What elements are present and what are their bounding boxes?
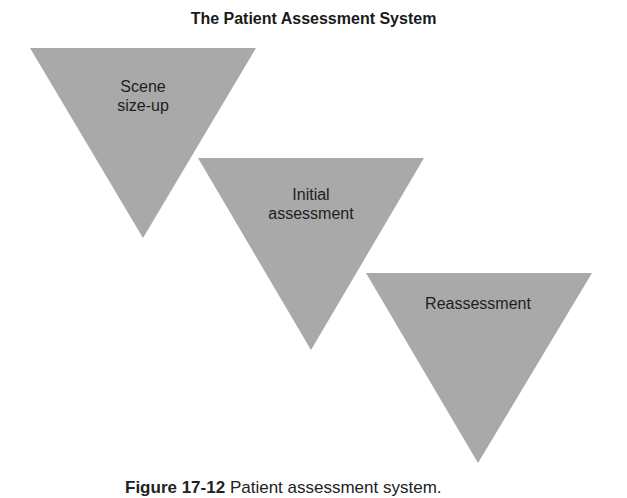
figure-caption: Figure 17-12 Patient assessment system. — [125, 478, 442, 498]
step-initial-assessment: Initial assessment — [251, 185, 371, 223]
step-reassessment: Reassessment — [408, 294, 548, 313]
figure-number: Figure 17-12 — [125, 478, 225, 497]
step-label-line1: Reassessment — [408, 294, 548, 313]
step-label-line1: Scene — [93, 77, 193, 96]
step-scene-size-up: Scene size-up — [93, 77, 193, 115]
caption-text: Patient assessment system. — [230, 478, 442, 497]
step-label-line2: size-up — [93, 96, 193, 115]
step-label-line1: Initial — [251, 185, 371, 204]
step-label-line2: assessment — [251, 204, 371, 223]
